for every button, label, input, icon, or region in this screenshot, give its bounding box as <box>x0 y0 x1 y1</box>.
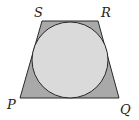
vertex-label-s: S <box>34 5 43 20</box>
vertex-label-p: P <box>6 97 16 112</box>
inscribed-circle <box>32 22 108 98</box>
vertex-label-q: Q <box>120 102 131 117</box>
vertex-label-r: R <box>100 5 111 20</box>
trapezoid-diagram: S R P Q <box>0 0 139 120</box>
